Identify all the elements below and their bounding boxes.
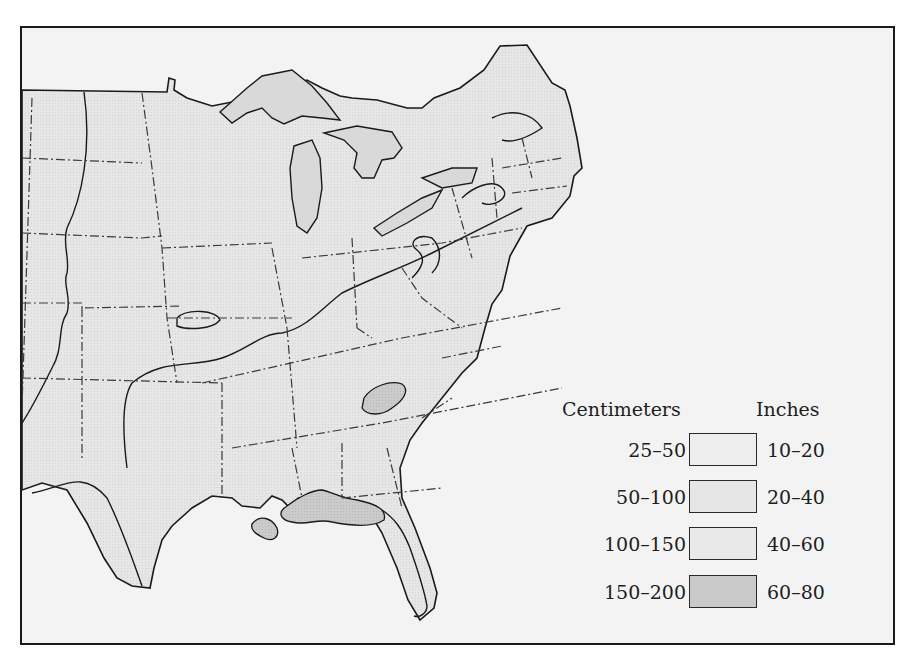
legend-cm-value: 25–50 [628, 439, 686, 461]
legend-header-centimeters: Centimeters [562, 398, 681, 420]
legend-cm-value: 150–200 [604, 581, 686, 603]
legend-inches-value: 40–60 [767, 533, 825, 555]
legend-header-inches: Inches [756, 398, 820, 420]
legend-swatch [689, 527, 757, 560]
heavy-rain-zone-louisiana [252, 518, 278, 539]
lake-superior [220, 70, 340, 124]
legend-swatch [689, 575, 757, 608]
land-mass [22, 45, 582, 620]
legend-item: 50–100 20–40 [562, 480, 862, 516]
legend: Centimeters Inches 25–50 10–20 50–100 20… [562, 398, 862, 628]
legend-inches-value: 10–20 [767, 439, 825, 461]
legend-item: 150–200 60–80 [562, 575, 862, 611]
legend-item: 25–50 10–20 [562, 433, 862, 469]
legend-swatch [689, 433, 757, 466]
legend-inches-value: 60–80 [767, 581, 825, 603]
legend-cm-value: 50–100 [616, 486, 686, 508]
legend-swatch [689, 480, 757, 513]
legend-inches-value: 20–40 [767, 486, 825, 508]
legend-cm-value: 100–150 [604, 533, 686, 555]
legend-item: 100–150 40–60 [562, 527, 862, 563]
map-frame: Centimeters Inches 25–50 10–20 50–100 20… [20, 26, 895, 645]
